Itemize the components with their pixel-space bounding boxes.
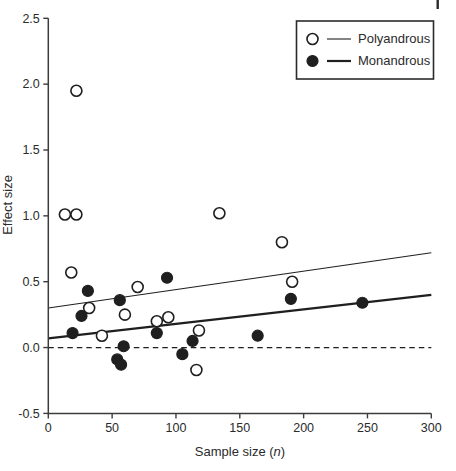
y-tick-label: 0.0 bbox=[22, 341, 39, 355]
data-point-monandrous bbox=[114, 295, 125, 306]
data-point-monandrous bbox=[187, 335, 198, 346]
data-points-layer bbox=[59, 85, 367, 375]
y-tick-label: -0.5 bbox=[18, 407, 40, 421]
y-tick-label: 2.0 bbox=[22, 77, 39, 91]
x-tick-label: 150 bbox=[229, 421, 250, 435]
data-point-polyandrous bbox=[193, 325, 204, 336]
data-point-monandrous bbox=[116, 359, 127, 370]
page-edge-artifact bbox=[437, 0, 439, 9]
x-tick-label: 100 bbox=[166, 421, 187, 435]
data-point-polyandrous bbox=[132, 281, 143, 292]
trend-lines-layer bbox=[48, 253, 431, 339]
figure-page: -0.50.00.51.01.52.02.5050100150200250300… bbox=[0, 0, 456, 471]
data-point-polyandrous bbox=[214, 208, 225, 219]
data-point-monandrous bbox=[67, 328, 78, 339]
data-point-polyandrous bbox=[151, 316, 162, 327]
legend-open-circle-icon bbox=[307, 34, 318, 45]
data-point-monandrous bbox=[285, 293, 296, 304]
x-axis-title: Sample size (n) bbox=[195, 444, 285, 459]
y-tick-label: 1.5 bbox=[22, 143, 39, 157]
data-point-polyandrous bbox=[59, 209, 70, 220]
data-point-polyandrous bbox=[276, 237, 287, 248]
y-axis-title: Effect size bbox=[0, 175, 15, 235]
x-tick-label: 250 bbox=[357, 421, 378, 435]
data-point-monandrous bbox=[162, 272, 173, 283]
data-point-monandrous bbox=[82, 285, 93, 296]
data-point-polyandrous bbox=[71, 85, 82, 96]
data-point-monandrous bbox=[151, 328, 162, 339]
data-point-polyandrous bbox=[163, 312, 174, 323]
y-tick-label: 0.5 bbox=[22, 275, 39, 289]
legend-label-polyandrous: Polyandrous bbox=[358, 31, 431, 46]
trend-line-polyandrous bbox=[48, 253, 431, 308]
data-point-polyandrous bbox=[96, 330, 107, 341]
x-tick-label: 0 bbox=[45, 421, 52, 435]
x-tick-label: 300 bbox=[421, 421, 442, 435]
data-point-polyandrous bbox=[287, 276, 298, 287]
legend: Polyandrous Monandrous bbox=[297, 21, 434, 79]
data-point-polyandrous bbox=[66, 267, 77, 278]
legend-label-monandrous: Monandrous bbox=[358, 53, 431, 68]
data-point-polyandrous bbox=[119, 309, 130, 320]
legend-box bbox=[297, 21, 434, 79]
data-point-monandrous bbox=[252, 330, 263, 341]
data-point-monandrous bbox=[357, 297, 368, 308]
x-tick-label: 50 bbox=[105, 421, 119, 435]
data-point-polyandrous bbox=[191, 364, 202, 375]
y-tick-label: 1.0 bbox=[22, 209, 39, 223]
data-point-monandrous bbox=[76, 310, 87, 321]
y-tick-label: 2.5 bbox=[22, 12, 39, 26]
legend-filled-circle-icon bbox=[307, 56, 318, 67]
data-point-monandrous bbox=[118, 341, 129, 352]
scatter-plot: -0.50.00.51.01.52.02.5050100150200250300… bbox=[0, 0, 456, 471]
data-point-polyandrous bbox=[71, 209, 82, 220]
x-tick-label: 200 bbox=[293, 421, 314, 435]
data-point-monandrous bbox=[177, 349, 188, 360]
